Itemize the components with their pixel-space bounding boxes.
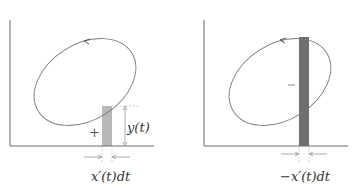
- right-direction-arrow-icon: [280, 38, 286, 43]
- diagram-canvas: y(t) + x′(t)dt − −x′(t)dt: [0, 0, 358, 190]
- right-sign-label: −: [287, 78, 297, 92]
- left-width-label: x′(t)dt: [91, 169, 131, 184]
- left-sign-label: +: [89, 125, 100, 140]
- left-height-label: y(t): [126, 120, 150, 135]
- left-direction-arrow-icon: [84, 39, 90, 44]
- right-width-label: −x′(t)dt: [280, 169, 331, 184]
- left-panel: y(t) + x′(t)dt: [10, 20, 154, 184]
- right-closed-curve: [213, 21, 347, 144]
- positive-area-strip: [102, 106, 112, 146]
- negative-area-strip: [299, 37, 309, 146]
- right-panel: − −x′(t)dt: [204, 20, 348, 184]
